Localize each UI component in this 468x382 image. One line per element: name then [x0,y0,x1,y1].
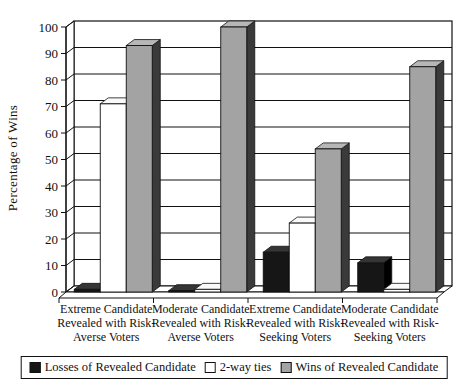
bar-front-face [358,263,384,292]
category-label: Extreme CandidateRevealed with Risk-Seek… [246,302,344,344]
bar-front-face [384,289,410,292]
bar-front-face [169,291,195,292]
losses-swatch-icon [30,362,41,373]
legend-label-ties: 2-way ties [220,360,272,375]
category-label: Moderate CandidateRevealed with Risk-See… [341,302,439,344]
bar-chart-plot: 0102030405060708090100Extreme CandidateR… [0,0,468,352]
y-tick-label: 60 [45,126,58,141]
bar-front-face [410,67,436,292]
y-tick-label: 0 [52,285,59,300]
bar-front-face [263,252,289,292]
bar-front-face [195,289,221,292]
bar-front-face [289,223,315,292]
y-tick-label: 100 [39,20,59,35]
legend-box: Losses of Revealed Candidate 2-way ties … [21,356,448,379]
ties-swatch-icon [205,362,216,373]
floor-front [59,292,444,298]
y-tick-label: 70 [45,99,58,114]
wins-swatch-icon [280,362,291,373]
bar [126,40,160,292]
figure: Percentage of Wins 010203040506070809010… [0,0,468,382]
bar-side-face [152,40,160,292]
y-tick-label: 50 [45,152,58,167]
bar [410,61,444,292]
bar-front-face [100,104,126,292]
legend-label-losses: Losses of Revealed Candidate [45,360,196,375]
bar-side-face [436,61,444,292]
bar-front-face [221,27,247,292]
y-tick-label: 40 [45,179,58,194]
bar-front-face [74,289,100,292]
y-tick-label: 80 [45,73,58,88]
category-label: Extreme CandidateRevealed with Risk-Aver… [57,302,155,344]
y-tick-label: 10 [45,258,58,273]
y-tick-label: 30 [45,205,58,220]
bar-side-face [247,21,255,292]
y-tick-label: 20 [45,232,58,247]
bar [221,21,255,292]
y-tick-label: 90 [45,46,58,61]
bar-front-face [315,149,341,292]
legend-item-wins: Wins of Revealed Candidate [280,360,438,375]
legend-item-losses: Losses of Revealed Candidate [30,360,196,375]
legend-label-wins: Wins of Revealed Candidate [295,360,438,375]
bar-side-face [341,143,349,292]
category-label: Moderate CandidateRevealed with Risk-Ave… [152,302,250,344]
bar-front-face [126,46,152,292]
legend-item-ties: 2-way ties [205,360,272,375]
bar [315,143,349,292]
